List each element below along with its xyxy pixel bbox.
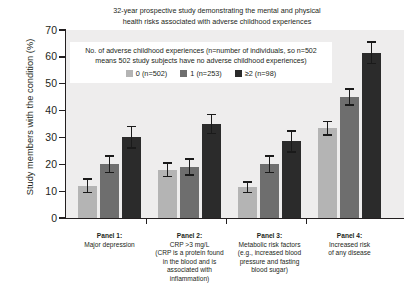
chart-title-line-2: health risks associated with adverse chi… — [123, 17, 312, 26]
bar — [202, 124, 221, 218]
error-bar — [349, 89, 351, 105]
y-axis-tick-label: 0 — [17, 213, 57, 224]
error-bar-cap — [127, 147, 136, 149]
error-bar-cap — [287, 130, 296, 132]
error-bar-cap — [163, 176, 172, 178]
legend-item: 1 (n=253) — [180, 69, 221, 78]
error-bar-cap — [367, 63, 376, 65]
y-axis-tick — [59, 29, 65, 30]
legend-label: 0 (n=502) — [136, 69, 167, 78]
legend-item: ≥2 (n=98) — [235, 69, 276, 78]
y-axis-tick — [59, 217, 65, 218]
chart-legend: No. of adverse childhood experiences (n=… — [70, 42, 332, 83]
legend-label: 1 (n=253) — [190, 69, 221, 78]
error-bar — [109, 156, 111, 172]
error-bar-cap — [323, 121, 332, 123]
panel-separator — [146, 218, 147, 224]
error-bar-cap — [265, 172, 274, 174]
legend-swatch — [180, 70, 187, 77]
panel-caption-line: of any disease — [306, 249, 394, 258]
panel-caption-head: Panel 3: — [226, 232, 314, 241]
y-axis-line — [65, 29, 66, 219]
y-axis-tick-label: 20 — [17, 159, 57, 170]
panel-caption: Panel 3:Metabolic risk factors(e.g., inc… — [226, 232, 314, 275]
error-bar-cap — [83, 192, 92, 194]
error-bar-cap — [323, 134, 332, 136]
error-bar — [167, 163, 169, 176]
error-bar-cap — [345, 104, 354, 106]
legend-swatch — [235, 70, 242, 77]
error-bar-cap — [163, 162, 172, 164]
panel-caption-line: Increased risk — [306, 241, 394, 250]
bar — [318, 128, 337, 218]
legend-items: 0 (n=502)1 (n=253)≥2 (n=98) — [76, 69, 326, 78]
error-bar-cap — [105, 155, 114, 157]
panel-caption-head: Panel 2: — [146, 232, 234, 241]
error-bar-cap — [265, 155, 274, 157]
legend-caption-line-2: means 502 study subjects have no adverse… — [95, 57, 306, 65]
error-bar-cap — [207, 133, 216, 135]
legend-label: ≥2 (n=98) — [245, 69, 276, 78]
bar — [340, 97, 359, 218]
legend-item: 0 (n=502) — [126, 69, 167, 78]
y-axis-tick-label: 50 — [17, 78, 57, 89]
panel-caption-line: (e.g., increased blood — [226, 249, 314, 258]
panel-caption-line: (CRP is a protein found — [146, 249, 234, 258]
y-axis-tick-label: 40 — [17, 105, 57, 116]
y-axis-tick — [59, 56, 65, 57]
x-axis-line — [65, 218, 404, 219]
y-axis-tick-label: 30 — [17, 132, 57, 143]
error-bar-cap — [367, 41, 376, 43]
panel-caption-head: Panel 1: — [66, 232, 154, 241]
panel-caption: Panel 2:CRP >3 mg/L(CRP is a protein fou… — [146, 232, 234, 284]
error-bar — [189, 159, 191, 175]
y-axis-tick-label: 10 — [17, 186, 57, 197]
error-bar-cap — [185, 174, 194, 176]
error-bar — [291, 131, 293, 152]
error-bar — [131, 127, 133, 148]
error-bar-cap — [345, 88, 354, 90]
y-axis-tick — [59, 110, 65, 111]
y-axis-tick — [59, 191, 65, 192]
y-axis-tick-label: 60 — [17, 51, 57, 62]
error-bar-cap — [287, 151, 296, 153]
panel-caption-line: Metabolic risk factors — [226, 241, 314, 250]
error-bar — [269, 156, 271, 172]
error-bar — [87, 179, 89, 192]
legend-caption: No. of adverse childhood experiences (n=… — [76, 47, 326, 66]
panel-caption-line: in the blood and is — [146, 258, 234, 267]
chart-figure: 32-year prospective study demonstrating … — [0, 0, 406, 304]
chart-title-line-1: 32-year prospective study demonstrating … — [113, 6, 320, 15]
panel-caption-line: CRP >3 mg/L — [146, 241, 234, 250]
panel-caption-line: associated with — [146, 266, 234, 275]
y-axis-tick — [59, 164, 65, 165]
error-bar — [371, 42, 373, 63]
error-bar — [211, 115, 213, 134]
bar — [122, 137, 141, 218]
panel-caption: Panel 1:Major depression — [66, 232, 154, 249]
panel-caption-head: Panel 4: — [306, 232, 394, 241]
panel-separator — [226, 218, 227, 224]
y-axis-tick-label: 70 — [17, 25, 57, 36]
error-bar-cap — [105, 172, 114, 174]
panel-caption-line: Major depression — [66, 241, 154, 250]
legend-swatch — [126, 70, 133, 77]
error-bar — [327, 121, 329, 134]
panel-caption: Panel 4:Increased riskof any disease — [306, 232, 394, 258]
bar — [362, 53, 381, 218]
chart-title: 32-year prospective study demonstrating … — [62, 6, 372, 27]
error-bar-cap — [243, 192, 252, 194]
panel-separator — [306, 218, 307, 224]
y-axis-tick — [59, 137, 65, 138]
panel-caption-line: pressure and fasting — [226, 258, 314, 267]
error-bar-cap — [83, 178, 92, 180]
error-bar-cap — [243, 181, 252, 183]
y-axis-tick — [59, 83, 65, 84]
panel-caption-line: blood sugar) — [226, 266, 314, 275]
error-bar-cap — [185, 158, 194, 160]
panel-caption-line: inflammation) — [146, 275, 234, 284]
error-bar-cap — [127, 126, 136, 128]
legend-caption-line-1: No. of adverse childhood experiences (n=… — [85, 47, 316, 55]
error-bar-cap — [207, 114, 216, 116]
